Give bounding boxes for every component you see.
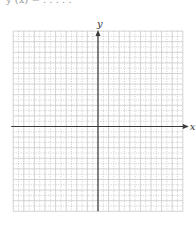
axes	[11, 30, 189, 211]
x-axis-arrow-icon	[183, 124, 189, 129]
coordinate-plane: x y	[0, 0, 196, 225]
y-axis-label: y	[96, 18, 103, 29]
x-axis-label: x	[190, 121, 196, 132]
